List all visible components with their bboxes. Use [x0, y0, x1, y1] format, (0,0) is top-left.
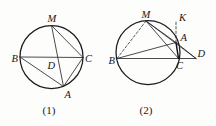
figure-1-segment-AC: [64, 58, 84, 87]
figure-2-segment-MC: [146, 21, 179, 59]
figure-2-label-C: C: [176, 60, 184, 71]
figure-2-label-A: A: [180, 32, 188, 43]
figure-1-label-A: A: [64, 89, 72, 100]
figure-2-label-M: M: [141, 9, 152, 20]
figure-2-segment-BA: [117, 43, 176, 59]
figure-1-segment-MA: [52, 26, 64, 87]
figure-2-circle: [116, 21, 180, 85]
figure-2-segment-MB: [117, 21, 146, 59]
figure-2-label-K: K: [178, 12, 187, 23]
figure-2-caption: (2): [140, 104, 153, 117]
figure-2-segment-AD: [176, 43, 196, 59]
figure-1-label-C: C: [85, 53, 93, 64]
figures-svg: M B C A D (1) M B C A D K (2): [0, 0, 216, 126]
figure-1-label-B: B: [12, 53, 19, 64]
figure-1-segment-BC: [20, 57, 83, 58]
figure-1-caption: (1): [43, 104, 56, 117]
figure-2: M B C A D K (2): [109, 9, 206, 117]
geometry-figure-sheet: M B C A D (1) M B C A D K (2): [0, 0, 216, 126]
figure-1-label-D: D: [47, 60, 56, 71]
figure-2-label-B: B: [109, 55, 116, 66]
figure-2-label-D: D: [197, 48, 206, 59]
figure-1-segment-BA: [20, 57, 64, 87]
figure-1-label-M: M: [47, 13, 58, 24]
figure-1: M B C A D (1): [12, 13, 94, 118]
